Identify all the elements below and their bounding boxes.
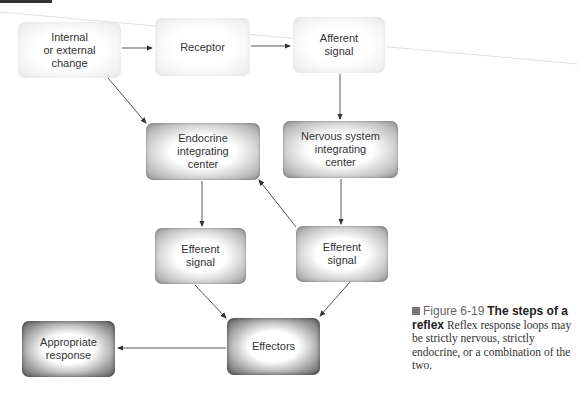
node-label: Afferent signal — [320, 32, 358, 58]
node-effectors: Effectors — [227, 318, 320, 375]
node-internal-external-change: Internal or external change — [18, 22, 121, 78]
node-appropriate-response: Appropriate response — [22, 321, 115, 377]
node-label: Appropriate response — [40, 336, 97, 362]
node-endocrine-integrating-center: Endocrine integrating center — [146, 123, 260, 180]
node-afferent-signal: Afferent signal — [293, 17, 385, 73]
node-label: Internal or external change — [44, 31, 96, 70]
node-nervous-system-integrating-center: Nervous system integrating center — [283, 121, 398, 178]
node-label: Efferent signal — [181, 243, 219, 269]
node-label: Endocrine integrating center — [177, 132, 228, 171]
node-receptor: Receptor — [155, 18, 250, 76]
figure-caption: Figure 6-19 The steps of a reflex Reflex… — [412, 305, 572, 373]
node-label: Receptor — [180, 41, 225, 54]
node-label: Nervous system integrating center — [301, 130, 380, 169]
node-label: Effectors — [252, 340, 295, 353]
square-bullet-icon — [412, 307, 420, 315]
node-efferent-signal-right: Efferent signal — [296, 226, 388, 282]
node-label: Efferent signal — [323, 241, 361, 267]
node-efferent-signal-left: Efferent signal — [155, 228, 246, 284]
figure-label: Figure 6-19 — [423, 304, 484, 318]
